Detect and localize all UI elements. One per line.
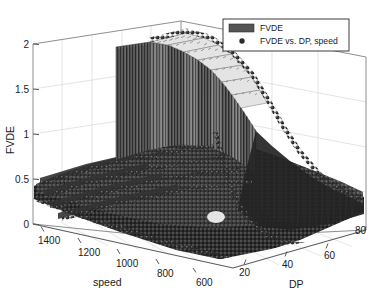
legend-label-scatter: FVDE vs. DP, speed: [260, 36, 338, 46]
z-tick-label-1-5: 1.5: [15, 84, 29, 95]
figure-3d-surface-plot: 2 1.5 1 0.5 0 FVDE 1400 1200 1000 800 60…: [0, 0, 374, 299]
z-tick-label-1: 1: [23, 129, 29, 140]
legend[interactable]: FVDE FVDE vs. DP, speed: [223, 19, 349, 51]
surface-highlight: [207, 211, 225, 223]
legend-swatch-fvde: [229, 24, 254, 32]
y-axis-title: DP: [289, 278, 304, 290]
y-tick-label-60: 60: [324, 250, 336, 261]
y-tick-label-80: 80: [355, 225, 367, 236]
legend-label-fvde: FVDE: [260, 23, 283, 33]
x-axis-title: speed: [93, 276, 122, 288]
x-tick-label-1000: 1000: [116, 258, 139, 269]
x-tick-label-1400: 1400: [38, 235, 61, 246]
plot-canvas: 2 1.5 1 0.5 0 FVDE 1400 1200 1000 800 60…: [0, 0, 374, 299]
x-tick-label-1200: 1200: [78, 247, 101, 258]
x-tick-label-600: 600: [196, 277, 213, 288]
legend-marker-icon: [239, 38, 244, 43]
x-tick-label-800: 800: [157, 268, 174, 279]
z-tick-label-2: 2: [23, 39, 29, 50]
z-tick-label-0: 0: [23, 219, 29, 230]
y-tick-label-40: 40: [282, 259, 294, 270]
z-axis-title: FVDE: [4, 126, 16, 154]
z-tick-label-0-5: 0.5: [15, 174, 29, 185]
y-tick-label-20: 20: [239, 267, 251, 278]
